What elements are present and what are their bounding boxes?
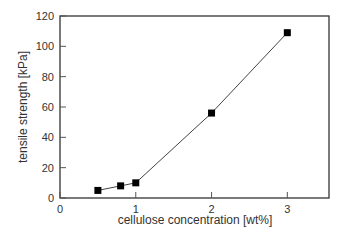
y-tick-label: 20 (42, 162, 54, 174)
chart: 0204060801001200123 (0, 0, 344, 241)
y-tick-label: 100 (36, 40, 54, 52)
data-point-marker (132, 179, 139, 186)
plot-frame (60, 16, 329, 198)
data-point-marker (94, 187, 101, 194)
y-axis-label: tensile strength [kPa] (16, 27, 30, 187)
data-line (98, 33, 287, 191)
y-tick-label: 40 (42, 131, 54, 143)
y-tick-label: 60 (42, 101, 54, 113)
data-point-marker (284, 29, 291, 36)
data-point-marker (117, 182, 124, 189)
y-tick-label: 80 (42, 71, 54, 83)
x-axis-label: cellulose concentration [wt%] (60, 213, 330, 227)
data-point-marker (208, 110, 215, 117)
y-tick-label: 120 (36, 10, 54, 22)
y-tick-label: 0 (48, 192, 54, 204)
